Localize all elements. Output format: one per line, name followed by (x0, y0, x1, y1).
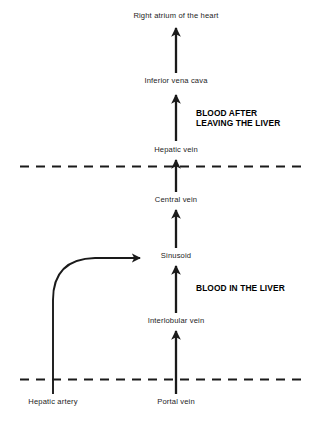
zone-label-blood-in-the-liver: BLOOD IN THE LIVER (196, 283, 285, 293)
hepatic-artery-curved-arrow (53, 258, 140, 394)
zone-label-line-1: BLOOD IN THE LIVER (196, 283, 285, 293)
zone-label-line-2: LEAVING THE LIVER (196, 118, 280, 128)
node-label-hepatic-artery: Hepatic artery (28, 397, 77, 406)
node-label-interlobular-vein: Interlobular vein (148, 316, 205, 325)
node-label-inferior-vena-cava: Inferior vena cava (144, 76, 207, 85)
node-label-right-atrium: Right atrium of the heart (133, 11, 218, 20)
zone-label-blood-after-leaving-the-liver: BLOOD AFTER LEAVING THE LIVER (196, 108, 280, 128)
diagram-vector-layer (0, 0, 323, 427)
hepatic-blood-flow-diagram: Right atrium of the heart Inferior vena … (0, 0, 323, 427)
node-label-hepatic-vein: Hepatic vein (154, 145, 198, 154)
zone-label-line-1: BLOOD AFTER (196, 108, 280, 118)
node-label-central-vein: Central vein (155, 195, 197, 204)
node-label-sinusoid: Sinusoid (161, 251, 191, 260)
node-label-portal-vein: Portal vein (157, 397, 195, 406)
